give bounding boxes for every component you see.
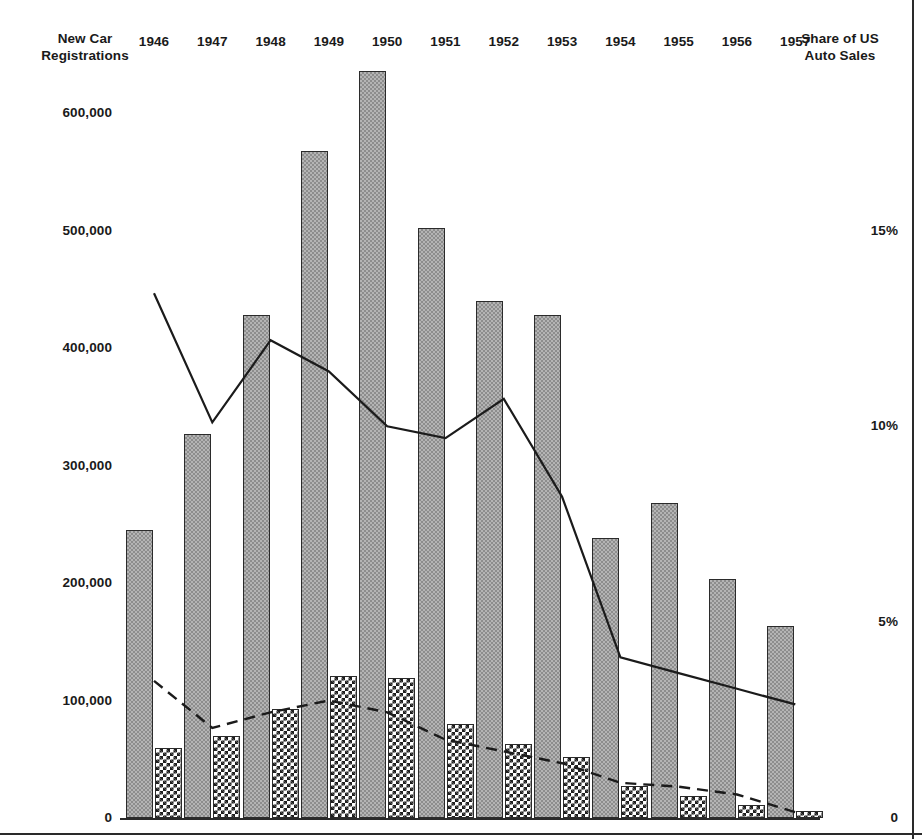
bar-secondary-1952 [505, 744, 532, 818]
bar-registrations-1956 [709, 579, 736, 818]
bar-registrations-1950 [359, 71, 386, 818]
bar-secondary-1950 [388, 678, 415, 818]
bar-secondary-1957 [796, 811, 823, 818]
bar-secondary-1953 [563, 757, 590, 818]
bar-secondary-1948 [272, 709, 299, 818]
bar-secondary-1955 [680, 796, 707, 818]
bar-registrations-1953 [534, 315, 561, 818]
bar-registrations-1957 [767, 626, 794, 818]
bar-registrations-1955 [651, 503, 678, 818]
bar-secondary-1951 [447, 724, 474, 818]
bar-registrations-1948 [243, 315, 270, 818]
bar-registrations-1951 [418, 228, 445, 818]
bar-registrations-1949 [301, 151, 328, 818]
bar-secondary-1956 [738, 805, 765, 818]
baseline-rule [120, 818, 820, 820]
chart-root: New Car Registrations Share of US Auto S… [0, 0, 922, 839]
bar-secondary-1949 [330, 676, 357, 818]
bar-registrations-1952 [476, 301, 503, 818]
bar-secondary-1946 [155, 748, 182, 819]
bar-secondary-1947 [213, 736, 240, 818]
plot-area [0, 0, 922, 839]
bar-secondary-1954 [621, 786, 648, 818]
bar-registrations-1947 [184, 434, 211, 818]
bar-registrations-1946 [126, 530, 153, 818]
bar-registrations-1954 [592, 538, 619, 818]
